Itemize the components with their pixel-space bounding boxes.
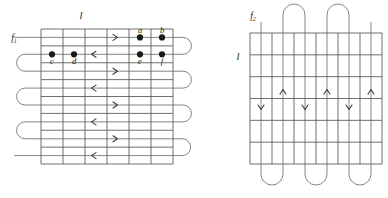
right-length-label: l [237,51,240,62]
right-diagram: l f2 [237,4,382,185]
left-dot-labels: a b c d e f [50,25,165,66]
right-grid [250,33,382,164]
figure-container: a b c d e f l f1 [0,0,388,198]
diagram-svg: a b c d e f l f1 [0,0,388,198]
left-grid [41,29,173,164]
left-length-label: l [80,10,83,21]
dot-label-c: c [50,56,54,66]
dot-label-a: a [138,25,142,35]
left-flow-label-sub: 1 [14,38,17,44]
right-flow-label-sub: 2 [253,16,256,22]
left-diagram: a b c d e f l f1 [11,10,191,164]
dot-label-d: d [72,56,77,66]
dot-label-e: e [138,56,142,66]
dot-b [159,34,165,40]
dot-label-f: f [161,56,165,66]
dot-a [137,34,143,40]
svg-text:f2: f2 [250,11,256,22]
left-flow-label: f1 [11,33,17,44]
dot-label-b: b [160,25,164,35]
svg-text:f1: f1 [11,33,17,44]
right-flow-label: f2 [250,11,256,22]
